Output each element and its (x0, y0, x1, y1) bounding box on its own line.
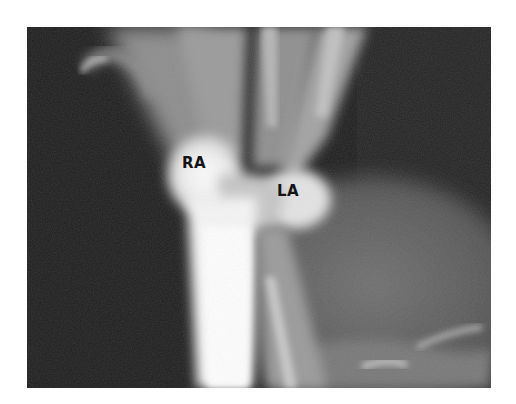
radiograph-graphic (27, 27, 491, 388)
radiograph-image: RA LA (27, 27, 491, 388)
left-atrium-label: LA (277, 184, 299, 199)
right-atrium-label: RA (182, 156, 206, 171)
